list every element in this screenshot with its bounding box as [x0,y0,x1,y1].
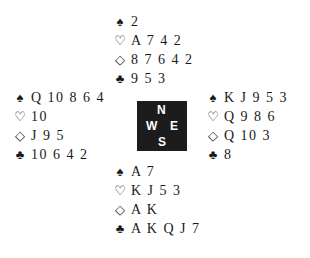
diamond-icon: ◇ [13,126,27,145]
heart-icon: ♡ [113,181,127,200]
spade-icon: ♠ [206,88,220,107]
spade-icon: ♠ [113,12,127,31]
compass-east: E [170,120,178,132]
south-hearts: ♡K J 5 3 [113,181,201,200]
east-hand: ♠K J 9 5 3 ♡Q 9 8 6 ◇Q 10 3 ♣8 [206,88,288,164]
club-icon: ♣ [113,219,127,238]
west-hearts: ♡10 [13,107,105,126]
west-diamonds: ◇J 9 5 [13,126,105,145]
heart-icon: ♡ [113,31,127,50]
west-hand: ♠Q 10 8 6 4 ♡10 ◇J 9 5 ♣10 6 4 2 [13,88,105,164]
north-hearts: ♡A 7 4 2 [113,31,194,50]
heart-icon: ♡ [13,107,27,126]
north-spades: ♠2 [113,12,194,31]
diamond-icon: ◇ [113,50,127,69]
west-spades: ♠Q 10 8 6 4 [13,88,105,107]
north-clubs: ♣9 5 3 [113,69,194,88]
east-hearts: ♡Q 9 8 6 [206,107,288,126]
south-diamonds: ◇A K [113,200,201,219]
spade-icon: ♠ [113,162,127,181]
east-diamonds: ◇Q 10 3 [206,126,288,145]
west-clubs: ♣10 6 4 2 [13,145,105,164]
heart-icon: ♡ [206,107,220,126]
compass-north: N [157,104,166,116]
north-hand: ♠2 ♡A 7 4 2 ◇8 7 6 4 2 ♣9 5 3 [113,12,194,88]
south-hand: ♠A 7 ♡K J 5 3 ◇A K ♣A K Q J 7 [113,162,201,238]
spade-icon: ♠ [13,88,27,107]
south-spades: ♠A 7 [113,162,201,181]
club-icon: ♣ [13,145,27,164]
compass-box: N W E S [137,101,187,151]
club-icon: ♣ [113,69,127,88]
diamond-icon: ◇ [113,200,127,219]
north-diamonds: ◇8 7 6 4 2 [113,50,194,69]
diamond-icon: ◇ [206,126,220,145]
compass-west: W [146,120,157,132]
club-icon: ♣ [206,145,220,164]
south-clubs: ♣A K Q J 7 [113,219,201,238]
east-clubs: ♣8 [206,145,288,164]
compass-south: S [158,136,166,148]
east-spades: ♠K J 9 5 3 [206,88,288,107]
